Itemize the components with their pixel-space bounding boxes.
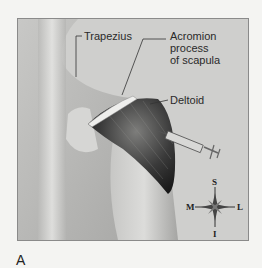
illustration-panel: Trapezius Acromion process of scapula De…: [17, 18, 249, 241]
spine-shape: [38, 19, 66, 240]
compass-superior: S: [212, 177, 217, 187]
compass-lateral: L: [237, 202, 243, 212]
compass-rose-icon: [195, 187, 235, 227]
compass-medial: M: [186, 202, 195, 212]
label-acromion-process: Acromion process of scapula: [170, 30, 220, 66]
compass-inferior: I: [213, 229, 217, 239]
label-deltoid: Deltoid: [170, 94, 204, 106]
panel-letter: A: [16, 252, 25, 268]
label-trapezius: Trapezius: [84, 30, 132, 42]
